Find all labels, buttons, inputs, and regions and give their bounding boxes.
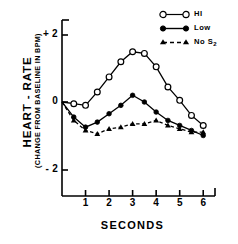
legend-swatch-open-circle-icon: [158, 8, 192, 21]
data-point: [94, 89, 100, 95]
x-tick-label-3: 3: [125, 197, 141, 208]
legend-label-no-s2: No S2: [194, 37, 217, 46]
legend-item-low: Low: [158, 22, 238, 36]
data-point: [130, 93, 135, 98]
x-tick-label-2: 2: [101, 197, 117, 208]
data-point: [118, 124, 124, 129]
data-point: [200, 123, 206, 129]
legend-swatch-filled-circle-icon: [158, 22, 192, 35]
x-tick-label-4: 4: [148, 197, 164, 208]
data-point: [165, 84, 171, 90]
data-point: [177, 97, 183, 103]
x-tick-label-6: 6: [195, 197, 211, 208]
chart-figure: HEART - RATE (CHANGE FROM BASELINE IN BP…: [0, 0, 238, 244]
legend-label-hi: HI: [194, 9, 203, 18]
legend: HI Low No S2: [158, 8, 238, 50]
data-point: [166, 118, 171, 123]
data-point: [130, 121, 136, 126]
data-point: [130, 49, 136, 55]
data-point: [95, 120, 100, 125]
data-point: [107, 111, 112, 116]
series-hi: [62, 49, 206, 128]
data-point: [189, 113, 195, 119]
legend-swatch-filled-triangle-icon: [158, 36, 192, 49]
data-point: [141, 51, 147, 57]
x-tick-label-5: 5: [172, 197, 188, 208]
data-point: [142, 100, 147, 105]
data-point: [71, 101, 77, 107]
data-point: [153, 118, 159, 123]
data-point: [94, 131, 100, 136]
x-tick-label-group: 123456: [0, 197, 238, 213]
data-series-group: [62, 49, 206, 138]
legend-item-hi: HI: [158, 8, 238, 22]
x-axis-title: SECONDS: [60, 219, 205, 231]
data-point: [154, 110, 159, 115]
legend-label-low: Low: [194, 23, 211, 32]
x-tick-label-1: 1: [78, 197, 94, 208]
data-point: [83, 102, 89, 108]
data-point: [118, 59, 124, 65]
data-point: [119, 103, 124, 108]
data-point: [106, 126, 112, 131]
data-point: [153, 64, 159, 70]
legend-item-no-s2: No S2: [158, 36, 238, 50]
data-point: [106, 74, 112, 80]
